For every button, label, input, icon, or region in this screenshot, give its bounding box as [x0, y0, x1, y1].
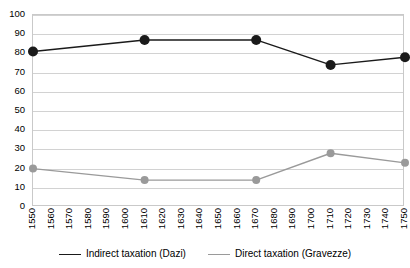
y-tick-label: 100	[9, 9, 25, 19]
x-tick-label: 1670	[250, 208, 260, 229]
y-tick-label: 0	[20, 201, 25, 211]
x-tick-label: 1680	[269, 208, 279, 229]
data-point	[140, 35, 150, 45]
data-point	[251, 35, 261, 45]
data-point	[252, 176, 260, 184]
x-tick-label: 1590	[101, 208, 111, 229]
x-tick-label: 1570	[64, 208, 74, 229]
x-tick-label: 1720	[343, 208, 353, 229]
data-point	[141, 176, 149, 184]
x-tick-label: 1700	[306, 208, 316, 229]
legend-line-icon	[59, 254, 81, 255]
legend-item[interactable]: Direct taxation (Gravezze)	[208, 249, 351, 259]
x-tick-label: 1610	[139, 208, 149, 229]
series-line	[33, 40, 405, 65]
x-tick-label: 1660	[232, 208, 242, 229]
x-tick-label: 1550	[27, 208, 37, 229]
x-tick-label: 1560	[46, 208, 56, 229]
legend-label: Direct taxation (Gravezze)	[235, 249, 351, 259]
x-tick-label: 1640	[194, 208, 204, 229]
series-layer	[33, 15, 405, 207]
x-tick-label: 1650	[213, 208, 223, 229]
x-tick-label: 1620	[157, 208, 167, 229]
x-tick-label: 1740	[380, 208, 390, 229]
y-tick-label: 70	[14, 67, 25, 77]
legend-item[interactable]: Indirect taxation (Dazi)	[59, 249, 186, 259]
y-tick-label: 30	[14, 144, 25, 154]
x-tick-label: 1630	[176, 208, 186, 229]
y-tick-label: 20	[14, 163, 25, 173]
x-tick-label: 1690	[287, 208, 297, 229]
y-tick-label: 40	[14, 124, 25, 134]
legend-label: Indirect taxation (Dazi)	[86, 249, 186, 259]
y-axis: 0102030405060708090100	[0, 14, 28, 206]
plot-wrapper	[32, 14, 404, 206]
legend-line-icon	[208, 254, 230, 255]
data-point	[326, 60, 336, 70]
x-tick-label: 1730	[362, 208, 372, 229]
data-point	[29, 165, 37, 173]
x-axis: 1550156015701580159016001610162016301640…	[32, 208, 404, 244]
x-tick-label: 1710	[325, 208, 335, 229]
x-tick-label: 1750	[399, 208, 409, 229]
data-point	[400, 52, 410, 62]
data-point	[327, 149, 335, 157]
x-tick-label: 1580	[83, 208, 93, 229]
x-tick-label: 1600	[120, 208, 130, 229]
y-tick-label: 80	[14, 48, 25, 58]
plot-area	[32, 14, 404, 206]
y-tick-label: 10	[14, 182, 25, 192]
y-tick-label: 50	[14, 105, 25, 115]
chart-legend: Indirect taxation (Dazi)Direct taxation …	[0, 246, 410, 262]
y-tick-label: 90	[14, 28, 25, 38]
data-point	[401, 159, 409, 167]
data-point	[28, 46, 38, 56]
line-chart: 0102030405060708090100 15501560157015801…	[0, 0, 410, 268]
y-tick-label: 60	[14, 86, 25, 96]
series-line	[33, 153, 405, 180]
